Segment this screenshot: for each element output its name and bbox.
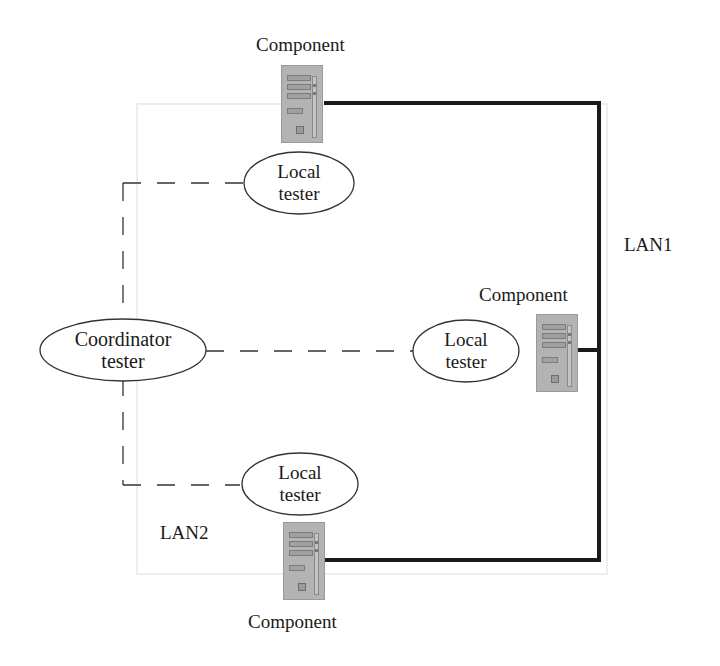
computer-tower-icon — [281, 65, 323, 143]
local-tester-mid: Local tester — [413, 329, 519, 373]
component-top-label: Component — [256, 35, 345, 54]
test-architecture-diagram: Coordinator tester Local tester Local te… — [0, 0, 720, 666]
computer-tower-icon — [283, 522, 325, 600]
coordinator-tester-line2: tester — [40, 350, 206, 372]
component-mid-label: Component — [479, 285, 568, 304]
coordinator-tester-line1: Coordinator — [40, 328, 206, 350]
local-tester-top-line1: Local — [244, 161, 354, 183]
local-tester-bottom: Local tester — [242, 462, 358, 506]
local-tester-bottom-line1: Local — [242, 462, 358, 484]
component-bottom-label: Component — [248, 612, 337, 631]
local-tester-mid-line2: tester — [413, 351, 519, 373]
local-tester-top-line2: tester — [244, 183, 354, 205]
lan2-label: LAN2 — [160, 523, 209, 542]
lan1-label: LAN1 — [624, 235, 673, 254]
coordinator-tester: Coordinator tester — [40, 328, 206, 372]
local-tester-top: Local tester — [244, 161, 354, 205]
computer-tower-icon — [536, 314, 578, 392]
local-tester-mid-line1: Local — [413, 329, 519, 351]
local-tester-bottom-line2: tester — [242, 484, 358, 506]
